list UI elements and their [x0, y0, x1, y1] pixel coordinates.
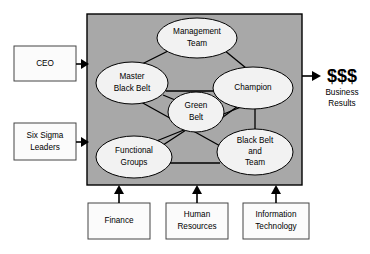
- input-box-shape-human-resources: [166, 203, 228, 239]
- output-money-label: $$$: [327, 66, 357, 86]
- output-business-results: $$$ Business Results: [325, 66, 358, 108]
- diagram-canvas: Management Team Master Black Belt Champi…: [0, 0, 370, 254]
- input-box-label-information-technology-line2: Technology: [255, 222, 297, 231]
- node-master-black-belt[interactable]: Master Black Belt: [96, 62, 168, 104]
- six-sigma-org-diagram: Management Team Master Black Belt Champi…: [0, 0, 370, 254]
- node-label-black-belt-team-line2: and: [248, 147, 262, 156]
- input-box-information-technology[interactable]: Information Technology: [243, 203, 309, 239]
- node-label-master-black-belt-line1: Master: [119, 72, 144, 81]
- node-label-champion: Champion: [234, 83, 272, 92]
- input-box-label-human-resources-line2: Resources: [177, 222, 216, 231]
- node-label-green-belt-line1: Green: [185, 101, 208, 110]
- node-green-belt[interactable]: Green Belt: [168, 92, 224, 132]
- node-label-black-belt-team-line1: Black Belt: [237, 136, 274, 145]
- node-shape-green-belt: [168, 92, 224, 132]
- input-box-label-finance: Finance: [104, 216, 134, 225]
- arrow-panel-to-business-results: [302, 71, 321, 81]
- input-box-human-resources[interactable]: Human Resources: [166, 203, 228, 239]
- arrow-human-resources-to-panel: [192, 185, 202, 203]
- node-shape-master-black-belt: [96, 62, 168, 104]
- input-box-label-human-resources-line1: Human: [184, 210, 211, 219]
- node-label-management-team-line2: Team: [187, 39, 207, 48]
- input-box-shape-information-technology: [243, 203, 309, 239]
- node-functional-groups[interactable]: Functional Groups: [96, 136, 172, 178]
- output-caption-line2: Results: [328, 99, 355, 108]
- node-shape-functional-groups: [96, 136, 172, 178]
- input-box-label-six-sigma-leaders-line1: Six Sigma: [27, 131, 64, 140]
- arrow-head-finance: [114, 185, 124, 194]
- node-black-belt-team[interactable]: Black Belt and Team: [217, 129, 293, 175]
- input-box-finance[interactable]: Finance: [88, 203, 150, 239]
- node-label-green-belt-line2: Belt: [189, 113, 204, 122]
- output-caption-line1: Business: [325, 88, 358, 97]
- node-champion[interactable]: Champion: [213, 67, 293, 109]
- input-box-shape-six-sigma-leaders: [14, 123, 76, 160]
- node-label-management-team-line1: Management: [173, 27, 222, 36]
- node-management-team[interactable]: Management Team: [157, 18, 237, 58]
- node-shape-management-team: [157, 18, 237, 58]
- input-box-six-sigma-leaders[interactable]: Six Sigma Leaders: [14, 123, 76, 160]
- arrow-information-technology-to-panel: [271, 185, 281, 203]
- arrow-finance-to-panel: [114, 185, 124, 203]
- input-box-label-six-sigma-leaders-line2: Leaders: [30, 143, 60, 152]
- input-box-label-information-technology-line1: Information: [256, 210, 297, 219]
- arrow-head-human-resources: [192, 185, 202, 194]
- arrow-head-business-results: [312, 71, 321, 81]
- node-label-master-black-belt-line2: Black Belt: [114, 84, 151, 93]
- node-label-functional-groups-line2: Groups: [121, 158, 148, 167]
- node-label-functional-groups-line1: Functional: [115, 146, 153, 155]
- node-label-black-belt-team-line3: Team: [245, 158, 265, 167]
- input-box-label-ceo: CEO: [36, 59, 54, 68]
- input-box-ceo[interactable]: CEO: [14, 46, 76, 81]
- arrow-head-information-technology: [271, 185, 281, 194]
